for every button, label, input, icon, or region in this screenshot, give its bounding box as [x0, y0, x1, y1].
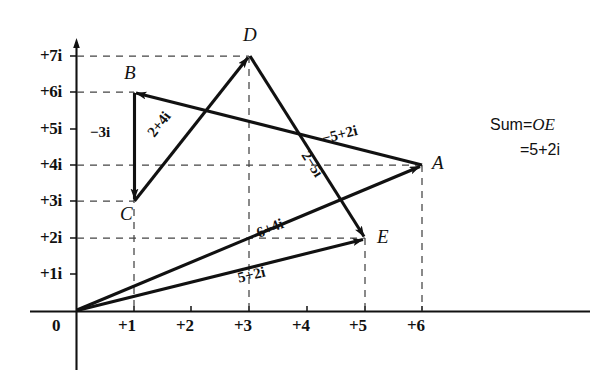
axis-lines	[30, 38, 590, 370]
vector-label-BC: −3i	[90, 124, 110, 141]
sum-value-2: 5+2i	[529, 141, 560, 158]
y-tick-4i: +4i	[6, 155, 62, 175]
point-label-A: A	[432, 152, 444, 174]
x-tick-5: +5	[349, 316, 367, 336]
sum-annotation: Sum=OE =5+2i	[490, 113, 560, 161]
point-label-C: C	[120, 203, 133, 225]
y-tick-7i: +7i	[6, 46, 62, 66]
figure-canvas: +7i +6i +5i +4i +3i +2i +1i 0 +1 +2 +3 +…	[0, 0, 614, 384]
y-tick-3i: +3i	[6, 191, 62, 211]
sum-value-1: OE	[532, 115, 555, 134]
x-tick-3: +3	[234, 316, 252, 336]
y-tick-1i: +1i	[6, 264, 62, 284]
sum-prefix: Sum	[490, 116, 523, 133]
y-tick-6i: +6i	[6, 82, 62, 102]
point-label-B: B	[124, 62, 136, 84]
x-tick-origin: 0	[52, 316, 60, 336]
x-tick-1: +1	[118, 316, 136, 336]
y-tick-2i: +2i	[6, 228, 62, 248]
x-tick-4: +4	[292, 316, 310, 336]
point-label-D: D	[243, 24, 257, 46]
x-tick-6: +6	[407, 316, 425, 336]
point-label-E: E	[377, 226, 389, 248]
x-tick-2: +2	[176, 316, 194, 336]
y-tick-5i: +5i	[6, 119, 62, 139]
sum-equals-2: =	[520, 141, 529, 158]
sum-equals-1: =	[523, 116, 532, 133]
sum-line-1: Sum=OE	[490, 113, 560, 138]
sum-line-2: =5+2i	[490, 138, 560, 161]
